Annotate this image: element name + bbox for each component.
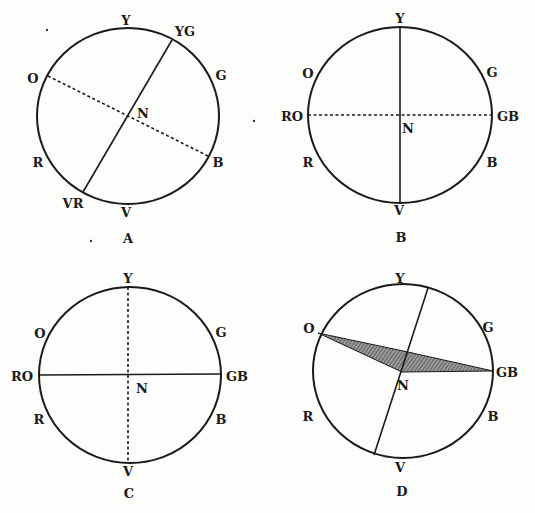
label-v: V [120, 205, 132, 220]
label-n: N [137, 106, 149, 121]
label-g: G [486, 65, 497, 80]
label-y: Y [394, 271, 405, 286]
label-y: Y [120, 13, 131, 28]
caption-a: A [122, 231, 134, 246]
caption-c: C [124, 486, 134, 501]
line-o-b-dashed [48, 76, 208, 156]
label-o: O [302, 66, 313, 81]
speck [46, 29, 48, 31]
label-y: Y [122, 271, 133, 286]
line-ro-gb [39, 374, 221, 375]
figure-d: Y O G GB N R B V D [303, 271, 518, 499]
label-b: B [213, 155, 224, 170]
label-ro: RO [281, 109, 303, 124]
color-circle-diagrams: Y YG G O N R B VR V A Y O G RO GB N R B … [0, 0, 535, 513]
shaded-wedge-o-gb [318, 333, 493, 372]
label-o: O [34, 326, 45, 341]
figure-a: Y YG G O N R B VR V A [27, 13, 255, 246]
label-v: V [122, 464, 134, 479]
figure-b: Y O G RO GB N R B V B [281, 11, 519, 245]
label-o: O [303, 321, 314, 336]
label-n: N [402, 121, 414, 136]
label-b: B [487, 155, 498, 170]
speck [253, 120, 255, 122]
diagram-canvas: Y YG G O N R B VR V A Y O G RO GB N R B … [0, 0, 535, 513]
label-y: Y [394, 11, 405, 26]
label-gb: GB [497, 109, 519, 124]
label-o: O [27, 71, 38, 86]
label-n: N [397, 378, 409, 393]
label-g: G [215, 68, 226, 83]
label-n: N [136, 381, 148, 396]
label-r: R [33, 155, 44, 170]
label-b: B [216, 412, 227, 427]
label-g: G [215, 325, 226, 340]
label-r: R [34, 412, 45, 427]
label-g: G [482, 320, 493, 335]
label-vr: VR [62, 196, 84, 211]
caption-d: D [396, 484, 407, 499]
label-ro: RO [11, 369, 33, 384]
label-v: V [393, 203, 405, 218]
label-gb: GB [496, 365, 518, 380]
label-v: V [394, 460, 406, 475]
label-r: R [303, 155, 314, 170]
label-r: R [303, 409, 314, 424]
label-yg: YG [174, 24, 195, 39]
speck [90, 240, 92, 242]
label-b: B [488, 409, 499, 424]
figure-c: Y O G RO GB N R B V C [11, 271, 248, 501]
label-gb: GB [226, 369, 248, 384]
caption-b: B [396, 230, 407, 245]
